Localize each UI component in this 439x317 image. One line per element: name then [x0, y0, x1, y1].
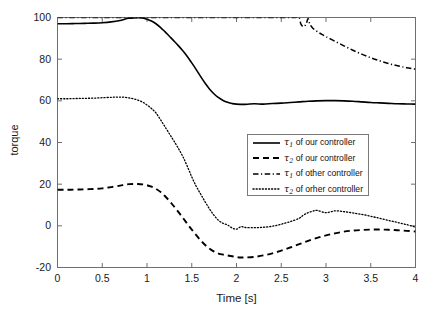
y-tick-label: -20 [10, 262, 51, 273]
legend-line-sample [252, 153, 281, 163]
x-tick-label: 3 [306, 273, 346, 284]
x-tick-label: 2.5 [261, 273, 301, 284]
legend-label: τ2 of our controller [284, 153, 355, 164]
x-tick-label: 2 [217, 273, 257, 284]
legend-line-sample [252, 184, 281, 194]
x-tick-label: 3.5 [351, 273, 391, 284]
legend-item-tau1_our: τ1 of our controller [248, 135, 368, 151]
legend-label: τ2 of orher controller [284, 184, 363, 195]
y-axis-label: torque [8, 110, 20, 170]
series-line-tau1_other [58, 17, 416, 69]
y-tick-label: 80 [10, 54, 51, 65]
legend-item-tau1_other: τ1 of other controller [248, 166, 368, 182]
x-tick-label: 4 [396, 273, 436, 284]
torque-comparison-figure: -20020406080100 00.511.522.533.54 torque… [0, 0, 439, 317]
legend-item-tau2_our: τ2 of our controller [248, 151, 368, 167]
y-tick-label: 20 [10, 179, 51, 190]
x-axis-label: Time [s] [57, 292, 416, 304]
legend: τ1 of our controllerτ2 of our controller… [247, 134, 369, 196]
legend-item-tau2_other: τ2 of orher controller [248, 182, 368, 198]
x-tick-label: 1 [127, 273, 167, 284]
legend-label: τ1 of our controller [284, 137, 355, 148]
x-tick-label: 0 [38, 273, 78, 284]
x-tick-label: 0.5 [82, 273, 122, 284]
y-tick-label: 100 [10, 12, 51, 23]
legend-line-sample [252, 169, 281, 179]
y-tick-label: 0 [10, 220, 51, 231]
x-tick-label: 1.5 [172, 273, 212, 284]
series-line-tau1_our [58, 18, 416, 105]
legend-label: τ1 of other controller [284, 168, 363, 179]
y-tick-label: 60 [10, 95, 51, 106]
plot-canvas [0, 0, 439, 317]
legend-line-sample [252, 138, 281, 148]
